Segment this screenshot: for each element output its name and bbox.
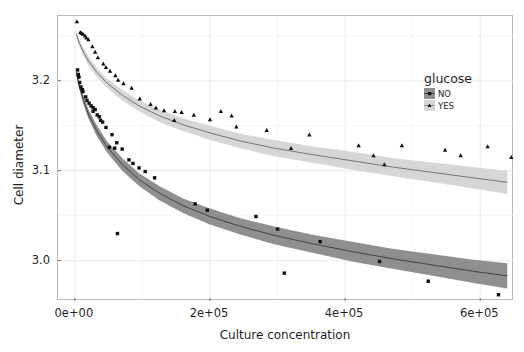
- y-tick-label: 3.2: [32, 73, 50, 87]
- plot-area: [58, 16, 514, 301]
- data-point: [234, 124, 238, 128]
- legend-title: glucose: [424, 72, 504, 86]
- data-point: [84, 95, 87, 98]
- data-point: [116, 78, 120, 82]
- data-point: [497, 293, 500, 296]
- data-point: [276, 227, 279, 230]
- data-point: [120, 147, 123, 150]
- data-point: [116, 232, 119, 235]
- y-tick-label: 3.0: [32, 253, 50, 267]
- y-axis-tick-labels: 3.03.13.2: [0, 0, 50, 352]
- data-point: [265, 128, 269, 132]
- legend-item-no[interactable]: NO: [424, 88, 504, 99]
- data-point: [89, 104, 92, 107]
- data-point: [96, 55, 100, 59]
- x-tick-label: 0e+00: [55, 306, 94, 320]
- data-point: [104, 65, 108, 69]
- data-point: [77, 75, 80, 78]
- y-tick-label: 3.1: [32, 163, 50, 177]
- legend-square-marker-icon: [424, 88, 435, 99]
- data-point: [143, 170, 146, 173]
- data-point: [78, 81, 81, 84]
- data-point: [113, 146, 116, 149]
- data-point: [115, 141, 118, 144]
- data-point: [91, 110, 94, 113]
- data-point: [113, 73, 117, 77]
- data-point: [93, 50, 97, 54]
- data-point: [458, 153, 462, 157]
- data-point: [99, 119, 102, 122]
- x-tick-label: 4e+05: [325, 306, 364, 320]
- data-point: [378, 260, 381, 263]
- data-point: [76, 68, 79, 71]
- data-point: [101, 61, 105, 65]
- legend-label-no: NO: [438, 89, 451, 99]
- data-point: [138, 97, 142, 101]
- data-point: [85, 99, 88, 102]
- data-point: [95, 113, 98, 116]
- data-point: [219, 109, 223, 113]
- data-point: [307, 132, 311, 136]
- data-point: [427, 280, 430, 283]
- data-point: [356, 143, 360, 147]
- data-point: [206, 209, 209, 212]
- confidence-ribbon: [76, 30, 507, 194]
- data-point: [193, 202, 196, 205]
- data-point: [485, 144, 489, 148]
- x-axis-tick-labels: 0e+002e+054e+056e+05: [0, 306, 524, 326]
- data-point: [208, 117, 212, 121]
- data-point: [129, 86, 133, 90]
- data-point: [153, 176, 156, 179]
- data-point: [127, 158, 130, 161]
- x-tick-label: 2e+05: [190, 306, 229, 320]
- data-point: [162, 108, 166, 112]
- plot-panel: [57, 15, 513, 300]
- data-point: [254, 215, 257, 218]
- legend-triangle-marker-icon: [424, 100, 435, 111]
- data-point: [90, 44, 94, 48]
- data-point: [148, 102, 152, 106]
- data-point: [131, 162, 134, 165]
- legend-item-yes[interactable]: YES: [424, 100, 504, 111]
- data-point: [192, 113, 196, 117]
- data-point: [318, 240, 321, 243]
- x-axis-title: Culture concentration: [57, 328, 513, 342]
- legend-label-yes: YES: [438, 101, 454, 111]
- x-tick-label: 6e+05: [460, 306, 499, 320]
- data-point: [104, 126, 107, 129]
- data-point: [108, 69, 112, 73]
- chart-root: Cell diameter 3.03.13.2 0e+002e+054e+056…: [0, 0, 524, 352]
- data-point: [108, 146, 111, 149]
- data-point: [173, 109, 177, 113]
- data-point: [283, 271, 286, 274]
- data-point: [443, 148, 447, 152]
- data-point: [137, 166, 140, 169]
- data-point: [121, 81, 125, 85]
- data-point: [229, 114, 233, 118]
- legend: glucose NO YES: [424, 72, 504, 111]
- data-point: [179, 110, 183, 114]
- data-point: [110, 133, 113, 136]
- data-point: [509, 155, 513, 159]
- data-point: [400, 143, 404, 147]
- data-point: [81, 88, 84, 91]
